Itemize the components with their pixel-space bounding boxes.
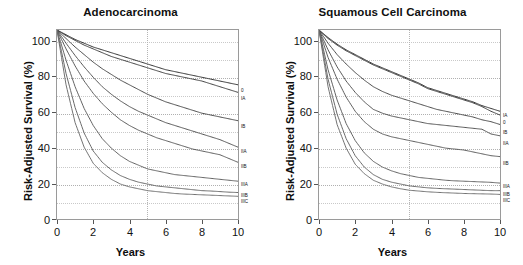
y-tick-label-0-left: 0	[14, 215, 50, 225]
curve-label-IIIA-left: IIIA	[241, 182, 248, 187]
panel-squamous-cell-carcinoma: Squamous Cell Carcinoma Risk-Adjusted Su…	[262, 0, 523, 265]
curve-label-IB-left: IB	[241, 124, 245, 129]
x-tick-label-0-right: 0	[307, 226, 331, 238]
curve-IIIC	[319, 30, 500, 194]
y-tick-label-20-right: 20	[276, 179, 312, 189]
curve-IIIA	[57, 30, 238, 181]
y-tick-label-60-right: 60	[276, 107, 312, 117]
x-tick-label-4-right: 4	[380, 226, 404, 238]
curve-label-0-left: 0	[241, 88, 244, 93]
figure-root: Adenocarcinoma Risk-Adjusted Survival (%…	[0, 0, 523, 265]
curve-label-IIIA-right: IIIA	[503, 184, 510, 189]
curve-label-IIA-left: IIA	[241, 149, 247, 154]
y-axis-title-wrap-right: Risk-Adjusted Survival (%)	[276, 29, 294, 220]
x-tick-label-6-right: 6	[416, 226, 440, 238]
x-axis-title-right: Years	[262, 246, 523, 258]
y-tick-label-40-left: 40	[14, 143, 50, 153]
x-tick-label-8-left: 8	[190, 226, 214, 238]
y-tick-label-20-left: 20	[14, 179, 50, 189]
plot-area-adenocarcinoma	[56, 29, 239, 220]
x-tick-mark-10-right	[500, 220, 501, 224]
curve-label-IB-right: IB	[503, 130, 507, 135]
y-tick-label-0-right: 0	[276, 215, 312, 225]
curve-label-IIIB-left: IIIB	[241, 193, 248, 198]
x-tick-mark-10-left	[238, 220, 239, 224]
panel-title-squamous: Squamous Cell Carcinoma	[262, 6, 523, 18]
x-tick-mark-6-left	[166, 220, 167, 224]
x-tick-label-6-left: 6	[154, 226, 178, 238]
x-tick-mark-8-left	[202, 220, 203, 224]
y-tick-label-100-left: 100	[14, 36, 50, 46]
x-tick-mark-8-right	[464, 220, 465, 224]
curve-0	[57, 30, 238, 85]
curve-label-0-right: 0	[503, 120, 506, 125]
panel-title-adenocarcinoma: Adenocarcinoma	[0, 6, 261, 18]
x-tick-mark-2-right	[355, 220, 356, 224]
x-tick-label-0-left: 0	[45, 226, 69, 238]
curve-label-IIA-right: IIA	[503, 141, 509, 146]
x-tick-mark-4-right	[392, 220, 393, 224]
y-tick-label-80-right: 80	[276, 71, 312, 81]
curve-label-IIIC-right: IIIC	[503, 198, 510, 203]
x-tick-label-10-right: 10	[488, 226, 512, 238]
x-tick-mark-2-left	[93, 220, 94, 224]
curve-IA	[319, 30, 500, 111]
x-tick-mark-0-right	[319, 220, 320, 224]
x-tick-label-4-left: 4	[118, 226, 142, 238]
curve-label-IIIC-left: IIIC	[241, 199, 248, 204]
panel-adenocarcinoma: Adenocarcinoma Risk-Adjusted Survival (%…	[0, 0, 261, 265]
x-tick-label-2-right: 2	[343, 226, 367, 238]
survival-curves-squamous	[319, 30, 500, 219]
y-tick-label-60-left: 60	[14, 107, 50, 117]
x-tick-mark-4-left	[130, 220, 131, 224]
curve-IA	[57, 30, 238, 92]
y-tick-label-40-right: 40	[276, 143, 312, 153]
x-tick-label-8-right: 8	[452, 226, 476, 238]
plot-area-squamous	[318, 29, 501, 220]
x-tick-mark-6-right	[428, 220, 429, 224]
x-tick-label-2-left: 2	[81, 226, 105, 238]
curve-label-IIB-right: IIB	[503, 161, 509, 166]
curve-IIA	[319, 30, 500, 136]
x-tick-mark-0-left	[57, 220, 58, 224]
y-axis-title-wrap-left: Risk-Adjusted Survival (%)	[14, 29, 32, 220]
curve-IIIB	[319, 30, 500, 191]
curve-IIIA	[319, 30, 500, 183]
curve-IIA	[57, 30, 238, 147]
x-axis-title-left: Years	[0, 246, 261, 258]
y-tick-label-100-right: 100	[276, 36, 312, 46]
curve-label-IA-right: IA	[503, 113, 507, 118]
y-tick-label-80-left: 80	[14, 71, 50, 81]
curve-label-IIB-left: IIB	[241, 164, 247, 169]
x-tick-label-10-left: 10	[226, 226, 250, 238]
curve-0	[319, 30, 500, 115]
survival-curves-adenocarcinoma	[57, 30, 238, 219]
curve-IIB	[57, 30, 238, 162]
curve-IB	[319, 30, 500, 125]
curve-label-IA-left: IA	[241, 96, 245, 101]
curve-label-IIIB-right: IIIB	[503, 192, 510, 197]
